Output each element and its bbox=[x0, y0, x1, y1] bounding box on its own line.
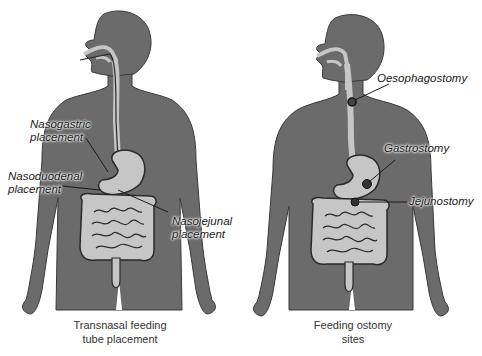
ostomy-figure: Oesophagostomy Gastrostomy Jejunostomy F… bbox=[241, 0, 482, 356]
nasogastric-label: Nasogastric placement bbox=[30, 118, 91, 144]
oesophagostomy-label: Oesophagostomy bbox=[377, 72, 467, 85]
transnasal-figure: Nasogastric placement Nasoduodenal place… bbox=[0, 0, 241, 356]
gastrostomy-label: Gastrostomy bbox=[384, 142, 449, 155]
nasoduodenal-label: Nasoduodenal placement bbox=[8, 170, 82, 196]
body-silhouette-icon bbox=[241, 0, 482, 356]
jejunostomy-label: Jejunostomy bbox=[409, 195, 474, 208]
ostomy-caption: Feeding ostomy sites bbox=[273, 318, 433, 346]
nasojejunal-label: Nasojejunal placement bbox=[172, 215, 232, 241]
transnasal-caption: Transnasal feeding tube placement bbox=[40, 318, 200, 346]
